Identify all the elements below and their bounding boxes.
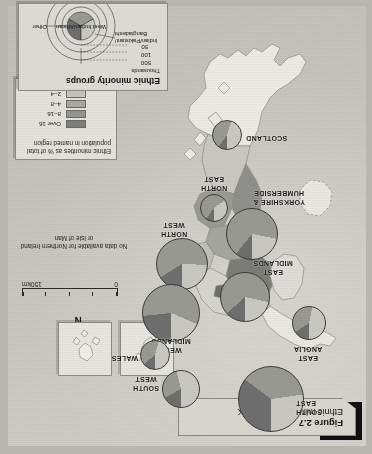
inset-orkney — [58, 322, 112, 376]
legend-label: 8–16 — [47, 111, 61, 118]
key-ring-100: 100 — [141, 52, 151, 58]
key-group-other: Other — [33, 23, 48, 30]
key-group-west-indian-african: West Indian/African — [39, 23, 123, 30]
no-data-note: No data available for Northern Ireland o… — [20, 234, 128, 250]
region-label-south-west: SOUTH WEST — [124, 375, 168, 392]
pie-west-midlands — [142, 284, 200, 342]
legend-swatch — [66, 101, 86, 109]
legend-swatch — [66, 111, 86, 119]
pie-south-east — [238, 366, 304, 432]
paper-sheet: 24 Figure 2.7 Ethnic minorities in the U… — [8, 6, 366, 446]
inset-orkney-map — [59, 323, 111, 375]
scanned-page: 24 Figure 2.7 Ethnic minorities in the U… — [0, 0, 372, 454]
legend-swatch — [66, 121, 86, 129]
scale-bar-graphic — [22, 288, 118, 296]
pie-east-midlands — [220, 272, 270, 322]
region-label-north-west: NORTH WEST — [152, 221, 196, 238]
legend-caption: Ethnic minorities as % of total populati… — [19, 139, 111, 155]
legend-label: 2–4 — [51, 91, 61, 98]
region-label-east-midlands: EAST MIDLANDS — [242, 259, 304, 276]
legend-label: 4–8 — [51, 101, 61, 108]
pie-yorkshire-humberside — [226, 208, 278, 260]
scale-label-min: 0 — [114, 281, 118, 288]
key-units-label: Thousands — [131, 67, 160, 74]
region-label-south-east: SOUTH EAST — [296, 399, 340, 416]
pie-north-east — [200, 194, 228, 222]
legend-label: Over 16 — [39, 121, 61, 128]
ethnic-minority-groups-key: Ethnic minority groups — [18, 3, 168, 91]
legend-row: 4–8 — [39, 100, 86, 109]
key-ring-500: 500 — [141, 60, 151, 66]
region-shape-scotland — [188, 44, 306, 146]
legend-row: 2–4 — [39, 90, 86, 99]
pie-north-west — [156, 238, 208, 290]
region-label-east-anglia: EAST ANGLIA — [280, 345, 336, 362]
legend-row: 8–16 — [39, 110, 86, 119]
figure-number: Figure 2.7 — [299, 418, 343, 429]
key-ring-50: 50 — [141, 44, 148, 50]
scale-bar: 0 150km — [22, 288, 118, 296]
legend-swatch — [66, 91, 86, 99]
pie-east-anglia — [292, 306, 326, 340]
scale-label-max: 150km — [22, 281, 42, 288]
region-label-wales: WALES — [98, 354, 138, 363]
key-group-indian-pakistani-bangladeshi: Indian/Pakistani/ Bangladeshi — [115, 31, 163, 44]
pie-wales — [140, 340, 170, 370]
region-label-scotland: SCOTLAND — [246, 134, 292, 143]
region-label-yorkshire-humberside: YORKSHIRE & HUMBERSIDE — [244, 189, 314, 206]
pie-scotland — [212, 120, 242, 150]
region-label-north-east: NORTH EAST — [192, 175, 236, 192]
legend-row: Over 16 — [39, 120, 86, 129]
